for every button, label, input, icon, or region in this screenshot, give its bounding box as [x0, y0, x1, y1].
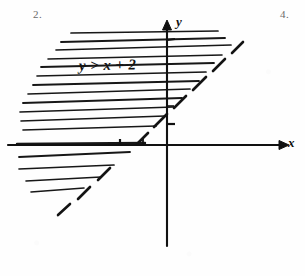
hatch-line: [23, 126, 156, 130]
inequality-label: y > x + 2: [79, 56, 137, 74]
hatch-line: [33, 81, 199, 85]
hatch-line: [23, 98, 182, 103]
boundary-dash-segment: [213, 59, 225, 71]
y-axis-label: y: [176, 14, 182, 30]
inequality-graph: [0, 0, 305, 276]
x-axis-label: x: [288, 135, 295, 151]
hatch-line: [19, 152, 130, 157]
hatch-line: [71, 31, 218, 33]
hatch-line: [17, 143, 145, 144]
y-axis-tick: [167, 39, 175, 40]
boundary-dash-segment: [193, 77, 206, 90]
hatch-line: [31, 188, 84, 192]
y-axis-arrowhead: [163, 20, 172, 30]
hatch-line: [20, 107, 174, 112]
hatch-line: [26, 177, 101, 181]
hatch-line: [21, 116, 165, 121]
worksheet-page: 2. 4.: [0, 0, 305, 276]
hatch-line: [56, 45, 231, 50]
hatch-shading-group: [17, 31, 231, 192]
hatch-line: [28, 89, 190, 94]
hatch-line: [61, 38, 225, 42]
boundary-dash-segment: [232, 42, 243, 53]
hatch-line: [19, 165, 114, 169]
boundary-dash-segment: [58, 204, 70, 215]
boundary-dash-segment: [98, 168, 110, 180]
